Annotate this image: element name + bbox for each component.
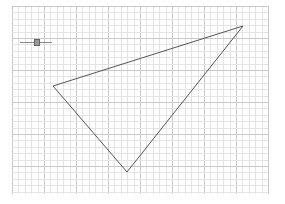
triangle[interactable]: [53, 26, 243, 172]
grid: [12, 6, 269, 194]
slider[interactable]: [20, 41, 52, 44]
slider-handle[interactable]: [34, 39, 40, 46]
geometry-canvas[interactable]: [0, 0, 285, 204]
